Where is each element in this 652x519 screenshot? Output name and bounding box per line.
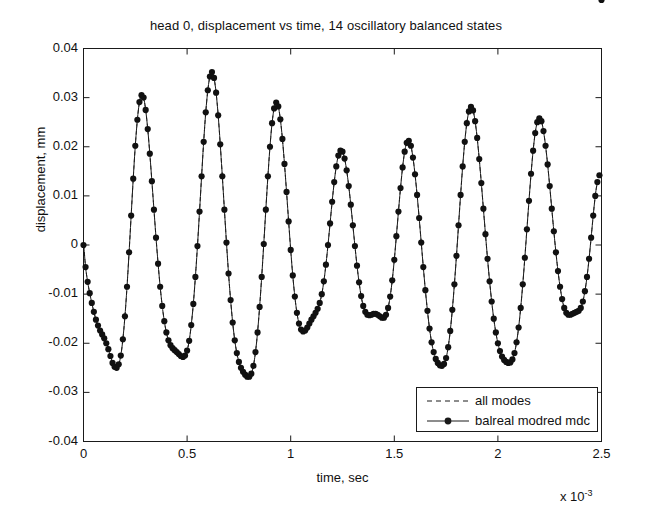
legend-swatch-marker-line (425, 414, 471, 428)
plot-canvas (0, 0, 652, 519)
figure-panel: head 0, displacement vs time, 14 oscilla… (0, 0, 652, 519)
legend-item-balreal-modred-mdc[interactable]: balreal modred mdc (417, 410, 597, 431)
series-balreal-modred-mdc-line (84, 72, 598, 377)
legend-label-balreal-modred-mdc: balreal modred mdc (475, 413, 590, 428)
series-all-modes-line (84, 72, 598, 377)
legend[interactable]: all modes balreal modred mdc (416, 387, 598, 432)
legend-item-all-modes[interactable]: all modes (417, 390, 597, 411)
series-balreal-modred-mdc-markers (80, 0, 604, 380)
axes-frame (84, 49, 602, 442)
tick-marks (84, 49, 602, 442)
legend-swatch-dashed-line (425, 394, 471, 408)
legend-label-all-modes: all modes (475, 393, 531, 408)
